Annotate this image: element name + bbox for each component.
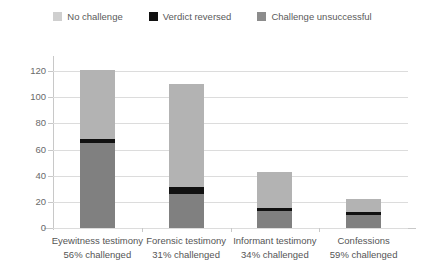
x-axis-label-sublabel-3: 59% challenged <box>330 248 398 262</box>
x-axis-label-1: Forensic testimony31% challenged <box>146 234 226 261</box>
x-axis-label-3: Confessions59% challenged <box>330 234 398 261</box>
x-tick-mark-1 <box>142 228 143 232</box>
y-tick-mark-0 <box>48 228 53 229</box>
bar-segment-challenge-unsuccessful <box>80 143 115 228</box>
bar-eyewitness-testimony[interactable] <box>80 70 115 228</box>
bar-segment-no-challenge <box>169 84 204 187</box>
y-tick-label-40: 40 <box>35 171 46 181</box>
stacked-bar-chart: 020406080100120 Eyewitness testimony56% … <box>0 0 425 277</box>
bar-segment-challenge-unsuccessful <box>169 194 204 228</box>
x-tick-mark-2 <box>231 228 232 232</box>
y-tick-label-100: 100 <box>30 92 46 102</box>
x-axis-label-category-3: Confessions <box>330 234 398 248</box>
x-axis-labels: Eyewitness testimony56% challengedForens… <box>53 234 408 274</box>
y-tick-mark-120 <box>48 71 53 72</box>
x-axis-label-sublabel-0: 56% challenged <box>52 248 143 262</box>
y-tick-label-20: 20 <box>35 197 46 207</box>
bar-segment-no-challenge <box>80 70 115 139</box>
x-axis-label-2: Informant testimony34% challenged <box>233 234 316 261</box>
x-axis-label-category-1: Forensic testimony <box>146 234 226 248</box>
y-tick-label-120: 120 <box>30 66 46 76</box>
bar-confessions[interactable] <box>346 199 381 228</box>
y-tick-mark-20 <box>48 202 53 203</box>
x-axis-label-category-0: Eyewitness testimony <box>52 234 143 248</box>
x-axis-label-sublabel-1: 31% challenged <box>146 248 226 262</box>
x-axis-label-category-2: Informant testimony <box>233 234 316 248</box>
bar-segment-no-challenge <box>257 172 292 209</box>
x-axis-label-sublabel-2: 34% challenged <box>233 248 316 262</box>
y-tick-mark-60 <box>48 150 53 151</box>
y-tick-mark-80 <box>48 123 53 124</box>
y-tick-mark-100 <box>48 97 53 98</box>
bar-segment-challenge-unsuccessful <box>346 215 381 228</box>
plot-area: 020406080100120 <box>53 58 408 228</box>
x-tick-mark-3 <box>319 228 320 232</box>
y-tick-mark-40 <box>48 176 53 177</box>
y-tick-label-80: 80 <box>35 119 46 129</box>
bar-segment-no-challenge <box>346 199 381 212</box>
bar-informant-testimony[interactable] <box>257 172 292 228</box>
y-tick-label-0: 0 <box>41 223 46 233</box>
bar-forensic-testimony[interactable] <box>169 84 204 228</box>
x-axis-label-0: Eyewitness testimony56% challenged <box>52 234 143 261</box>
y-tick-label-60: 60 <box>35 145 46 155</box>
bar-segment-challenge-unsuccessful <box>257 211 292 228</box>
